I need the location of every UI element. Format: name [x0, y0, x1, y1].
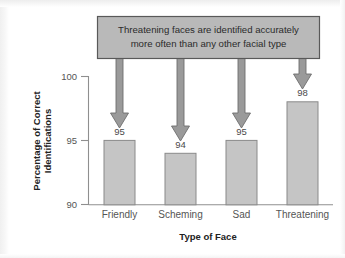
- bars-group: [104, 102, 318, 205]
- callout-arrow-sad: [233, 58, 251, 128]
- y-tick-label-90: 90: [66, 199, 77, 210]
- y-tick-label-95: 95: [66, 135, 77, 146]
- x-tick-label-sad: Sad: [233, 209, 251, 220]
- value-labels-group: 95 94 95 98: [114, 87, 308, 150]
- bar-friendly: [104, 140, 135, 204]
- bar-sad: [226, 140, 257, 204]
- y-axis-title-line1: Percentage of Correct: [31, 91, 42, 191]
- callout-arrow-scheming: [172, 58, 190, 141]
- bar-threatening: [287, 102, 318, 205]
- bar-chart: 100 95 90 Percentage of Correct Identifi…: [0, 0, 345, 258]
- callout-arrow-threatening: [294, 58, 312, 89]
- y-tick-label-100: 100: [61, 71, 77, 82]
- x-tick-label-scheming: Scheming: [158, 209, 202, 220]
- x-axis-title: Type of Face: [179, 231, 236, 242]
- callout-text-line-2: more often than any other facial type: [131, 38, 287, 49]
- x-tick-labels-group: Friendly Scheming Sad Threatening: [102, 209, 329, 220]
- figure-container: 100 95 90 Percentage of Correct Identifi…: [0, 0, 345, 258]
- bar-scheming: [165, 153, 196, 205]
- x-tick-label-friendly: Friendly: [102, 209, 138, 220]
- x-tick-label-threatening: Threatening: [276, 209, 329, 220]
- y-axis-title: Percentage of Correct Identifications: [31, 91, 53, 191]
- callout-arrow-friendly: [111, 58, 129, 128]
- callout-text-line-1: Threatening faces are identified accurat…: [118, 24, 299, 35]
- callout-box: Threatening faces are identified accurat…: [98, 17, 320, 59]
- callout-arrows-group: [111, 58, 312, 141]
- y-axis: 100 95 90: [61, 71, 88, 210]
- y-axis-title-line2: Identifications: [42, 109, 53, 173]
